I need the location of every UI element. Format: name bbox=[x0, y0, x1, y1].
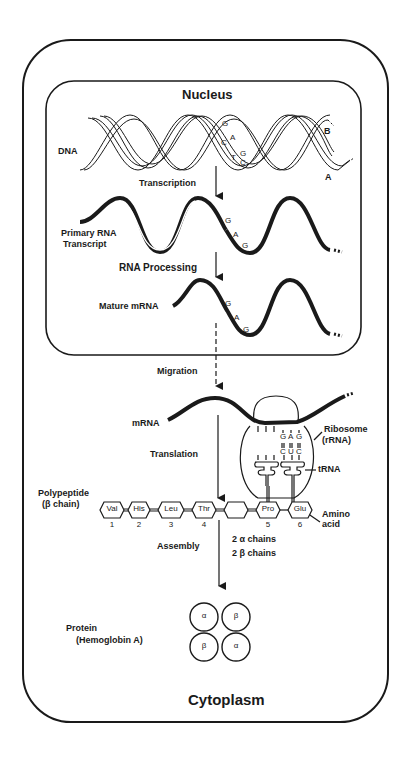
strand-b-label: B bbox=[324, 127, 331, 137]
protein-label-1: Protein bbox=[66, 624, 97, 634]
nucleus-label: Nucleus bbox=[182, 88, 233, 102]
subunit-beta-2: β bbox=[196, 642, 212, 651]
polypeptide-label-1: Polypeptide bbox=[38, 489, 89, 499]
subunit-alpha-1: α bbox=[196, 612, 212, 621]
mrna-base-a: A bbox=[234, 314, 239, 323]
protein-label-2: (Hemoglobin A) bbox=[76, 636, 143, 646]
codon-g2: G bbox=[296, 433, 302, 442]
dna-base-a: A bbox=[230, 134, 235, 143]
mature-mrna-strand bbox=[173, 280, 342, 336]
rna-base-g1: G bbox=[225, 217, 231, 226]
cytoplasm-mrna-label: mRNA bbox=[132, 419, 160, 429]
rna-base-g2: G bbox=[242, 242, 248, 251]
ribosome-label-2: (rRNA) bbox=[322, 436, 351, 446]
mrna-base-g1: G bbox=[225, 300, 231, 309]
diagram-canvas bbox=[0, 0, 411, 781]
transcription-label: Transcription bbox=[139, 179, 196, 189]
subunit-alpha-2: α bbox=[228, 642, 244, 651]
position-2: 2 bbox=[128, 521, 150, 530]
codon-a: A bbox=[288, 433, 293, 442]
anticodon-c2: C bbox=[296, 448, 302, 457]
cytoplasm-label: Cytoplasm bbox=[188, 692, 265, 709]
strand-a-label: A bbox=[325, 173, 332, 183]
assembly-label: Assembly bbox=[157, 542, 200, 552]
dna-base-t: T bbox=[231, 154, 236, 163]
position-6: 6 bbox=[288, 521, 312, 530]
dna-label: DNA bbox=[58, 147, 78, 157]
assembly-alpha-chains: 2 α chains bbox=[232, 535, 276, 545]
amino-acid-label-2: acid bbox=[322, 520, 340, 530]
dna-base-g1: G bbox=[222, 120, 228, 129]
codon-g1: G bbox=[280, 433, 286, 442]
amino-acid-pro: Pro bbox=[256, 505, 280, 514]
anticodon-u: U bbox=[288, 448, 294, 457]
assembly-beta-chains: 2 β chains bbox=[232, 549, 276, 559]
amino-acid-his: His bbox=[128, 505, 150, 514]
rna-base-a: A bbox=[233, 231, 238, 240]
mrna-base-g2: G bbox=[243, 326, 249, 335]
migration-label: Migration bbox=[157, 367, 198, 377]
primary-rna-label-2: Transcript bbox=[63, 240, 107, 250]
polypeptide-label-2: (β chain) bbox=[42, 500, 80, 510]
amino-acid-thr: Thr bbox=[192, 505, 216, 514]
amino-acid-glu: Glu bbox=[288, 505, 312, 514]
trna-label: tRNA bbox=[318, 465, 341, 475]
translation-label: Translation bbox=[150, 450, 198, 460]
position-5: 5 bbox=[256, 521, 280, 530]
amino-acid-val: Val bbox=[100, 505, 124, 514]
position-3: 3 bbox=[158, 521, 184, 530]
cytoplasm-mrna bbox=[168, 393, 354, 423]
anticodon-c1: C bbox=[280, 448, 286, 457]
position-1: 1 bbox=[100, 521, 124, 530]
position-4: 4 bbox=[192, 521, 216, 530]
primary-rna-label-1: Primary RNA bbox=[61, 229, 117, 239]
dna-helix bbox=[80, 115, 354, 170]
subunit-beta-1: β bbox=[228, 612, 244, 621]
ribosome-label-1: Ribosome bbox=[324, 425, 368, 435]
dna-base-c2: C bbox=[240, 159, 246, 168]
dna-base-c1: C bbox=[221, 139, 227, 148]
primary-rna-transcript bbox=[80, 198, 342, 253]
amino-acid-leu: Leu bbox=[158, 505, 184, 514]
mature-mrna-label: Mature mRNA bbox=[99, 302, 159, 312]
rna-processing-label: RNA Processing bbox=[119, 262, 197, 273]
